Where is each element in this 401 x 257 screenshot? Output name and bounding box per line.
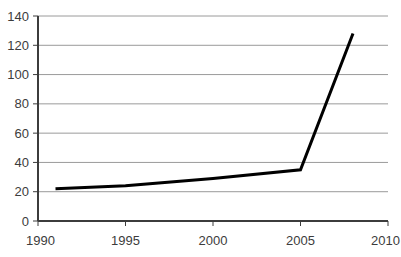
- y-tick-label-80: 80: [15, 96, 29, 111]
- y-tick-label-40: 40: [15, 155, 29, 170]
- chart-container: 020406080100120140 19901995200020052010: [0, 0, 401, 257]
- y-tick-label-120: 120: [7, 38, 29, 53]
- y-tick-label-20: 20: [15, 184, 29, 199]
- x-tick-label-1990: 1990: [26, 233, 55, 248]
- y-tick-label-0: 0: [22, 214, 29, 229]
- x-tick-label-2000: 2000: [199, 233, 228, 248]
- x-tick-label-1995: 1995: [111, 233, 140, 248]
- y-tick-label-100: 100: [7, 67, 29, 82]
- x-tick-label-2010: 2010: [371, 233, 400, 248]
- line-chart: 020406080100120140 19901995200020052010: [0, 0, 401, 257]
- y-tick-label-140: 140: [7, 9, 29, 24]
- chart-background: [0, 0, 401, 257]
- y-tick-label-60: 60: [15, 126, 29, 141]
- x-tick-label-2005: 2005: [286, 233, 315, 248]
